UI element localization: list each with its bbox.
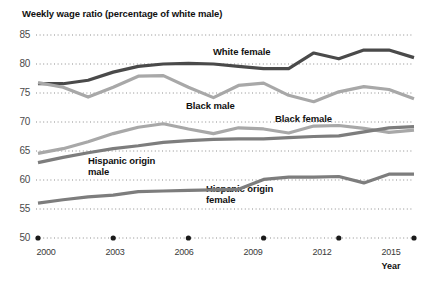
x-axis-marker-2015 — [411, 235, 416, 240]
wage-ratio-line-chart: Weekly wage ratio (percentage of white m… — [0, 0, 421, 286]
x-axis-marker-2003 — [111, 235, 116, 240]
x-axis-marker-2009 — [261, 235, 266, 240]
series-line-white-female — [38, 50, 414, 84]
chart-plot-area — [0, 0, 421, 286]
x-axis-marker-2006 — [186, 235, 191, 240]
x-axis-dot-markers — [35, 235, 416, 240]
series-line-hispanic-origin-female — [38, 174, 414, 203]
x-axis-marker-2000 — [35, 235, 40, 240]
x-axis-marker-2012 — [336, 235, 341, 240]
